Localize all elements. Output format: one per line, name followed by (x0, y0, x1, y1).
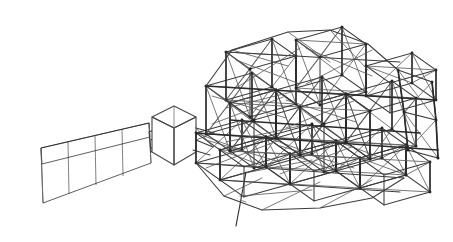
spacecraft-line-drawing (0, 0, 453, 242)
service-module-cube (152, 106, 196, 165)
background (0, 0, 453, 242)
figure-canvas: Spacecraft space-truss platform with dep… (0, 0, 453, 242)
